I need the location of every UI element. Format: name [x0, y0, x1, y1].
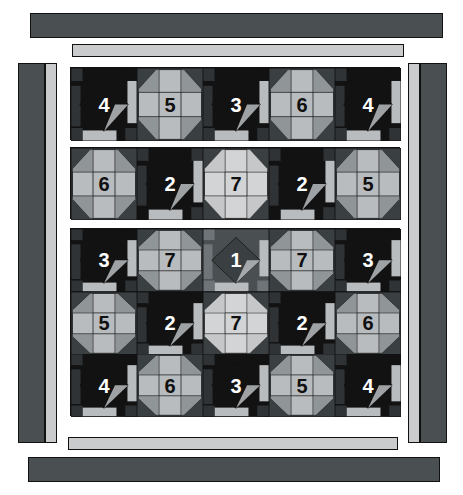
quilt-block-art	[335, 148, 401, 220]
quilt-block-art	[269, 354, 335, 417]
quilt-block-2[interactable]: 2	[269, 292, 335, 355]
quilt-block-3[interactable]: 3	[203, 354, 269, 417]
quilt-block-4[interactable]: 4	[335, 68, 401, 141]
quilt-block-4[interactable]: 4	[71, 68, 137, 141]
quilt-block-art	[71, 354, 137, 417]
quilt-block-art	[203, 354, 269, 417]
quilt-block-3[interactable]: 3	[71, 229, 137, 292]
top-inner-border-bar	[72, 44, 404, 57]
quilt-block-7[interactable]: 7	[137, 229, 203, 292]
quilt-block-art	[137, 292, 203, 355]
quilt-block-art	[137, 354, 203, 417]
quilt-block-art	[335, 354, 401, 417]
quilt-block-art	[203, 292, 269, 355]
quilt-block-6[interactable]: 6	[71, 148, 137, 220]
quilt-block-4[interactable]: 4	[335, 354, 401, 417]
quilt-block-6[interactable]: 6	[269, 68, 335, 141]
quilt-block-2[interactable]: 2	[269, 148, 335, 220]
quilt-block-art	[335, 292, 401, 355]
quilt-block-5[interactable]: 5	[269, 354, 335, 417]
bottom-inner-border-bar	[68, 437, 398, 450]
left-outer-border-bar	[18, 63, 45, 443]
left-inner-border-bar	[45, 63, 57, 443]
quilt-block-art	[269, 148, 335, 220]
quilt-block-art	[203, 148, 269, 220]
quilt-block-art	[335, 68, 401, 141]
right-inner-border-bar	[408, 63, 420, 443]
quilt-block-5[interactable]: 5	[335, 148, 401, 220]
quilt-block-4[interactable]: 4	[71, 354, 137, 417]
quilt-block-5[interactable]: 5	[137, 68, 203, 141]
quilt-section-bottom: 371735272646354	[70, 228, 400, 416]
quilt-block-3[interactable]: 3	[335, 229, 401, 292]
quilt-section-middle: 62725	[70, 147, 400, 219]
quilt-block-7[interactable]: 7	[269, 229, 335, 292]
quilt-pattern-canvas: 4536462725371735272646354	[0, 0, 463, 495]
quilt-block-6[interactable]: 6	[137, 354, 203, 417]
quilt-block-7[interactable]: 7	[203, 148, 269, 220]
quilt-block-2[interactable]: 2	[137, 148, 203, 220]
quilt-block-5[interactable]: 5	[71, 292, 137, 355]
quilt-block-art	[71, 148, 137, 220]
quilt-block-art	[71, 229, 137, 292]
quilt-block-7[interactable]: 7	[203, 292, 269, 355]
quilt-block-art	[137, 229, 203, 292]
quilt-block-art	[203, 229, 269, 292]
quilt-block-6[interactable]: 6	[335, 292, 401, 355]
quilt-block-art	[71, 292, 137, 355]
quilt-block-art	[203, 68, 269, 141]
quilt-block-1[interactable]: 1	[203, 229, 269, 292]
quilt-section-top: 45364	[70, 67, 400, 140]
quilt-block-art	[71, 68, 137, 141]
top-outer-border-bar	[30, 13, 443, 38]
right-outer-border-bar	[420, 63, 447, 443]
quilt-block-art	[137, 68, 203, 141]
quilt-block-art	[269, 292, 335, 355]
quilt-block-2[interactable]: 2	[137, 292, 203, 355]
quilt-block-art	[335, 229, 401, 292]
quilt-block-art	[137, 148, 203, 220]
quilt-block-3[interactable]: 3	[203, 68, 269, 141]
quilt-block-art	[269, 229, 335, 292]
quilt-block-art	[269, 68, 335, 141]
bottom-outer-border-bar	[28, 457, 440, 482]
